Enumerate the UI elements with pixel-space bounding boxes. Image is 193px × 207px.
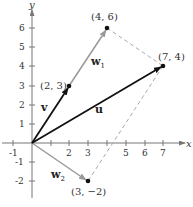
y-axis-label: y	[28, 0, 35, 10]
point-7-4	[161, 64, 166, 69]
vector-label-v: v	[40, 101, 48, 114]
y-tick-label: 3	[19, 81, 25, 91]
vector-label-u: u	[95, 103, 103, 116]
y-tick-label: 4	[19, 61, 25, 71]
point-3-neg2	[86, 179, 91, 184]
vector-label-w1: w1	[90, 55, 105, 70]
point-label: (3, −2)	[71, 186, 106, 197]
point-label: (4, 6)	[91, 11, 118, 22]
y-tick-label: 1	[19, 119, 25, 129]
x-tick-label: 2	[66, 148, 72, 158]
y-tick-label: 2	[19, 100, 25, 110]
vector-label-w2: w2	[50, 168, 65, 183]
dashed-line	[88, 66, 163, 181]
dashed-line	[107, 28, 163, 66]
y-tick-label: -1	[15, 157, 24, 167]
x-axis: -1 2 3 5 6 7 x	[2, 138, 192, 158]
x-tick-label: 7	[160, 148, 166, 158]
x-tick-label: 5	[123, 148, 129, 158]
y-axis: 6 5 4 3 2 1 -1 -2 y	[15, 0, 35, 198]
y-tick-label: 5	[19, 42, 25, 52]
point-label: (2, 3)	[40, 80, 67, 91]
x-tick-label: 6	[142, 148, 148, 158]
y-tick-label: 6	[19, 23, 25, 33]
point-label: (7, 4)	[158, 51, 185, 62]
point-4-6	[105, 26, 110, 31]
y-tick-label: -2	[15, 176, 24, 186]
x-tick-label: 3	[85, 148, 91, 158]
vector-v	[32, 88, 68, 143]
point-2-3	[67, 84, 72, 89]
x-axis-label: x	[186, 138, 192, 149]
vector-diagram: -1 2 3 5 6 7 x 6 5 4 3 2 1 -1 -2 y	[0, 0, 193, 207]
